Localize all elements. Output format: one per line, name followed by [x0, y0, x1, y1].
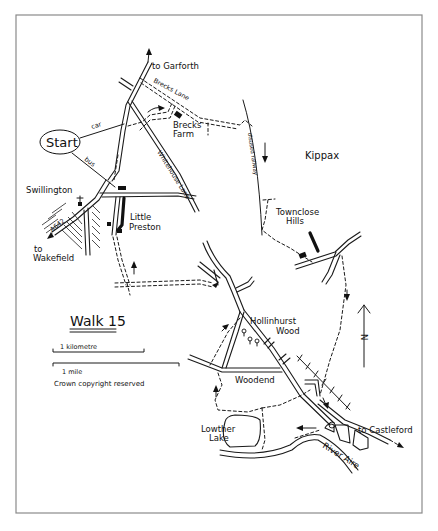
- label-river-aire: River Aire: [321, 440, 361, 470]
- label-garforth: to Garforth: [152, 61, 199, 71]
- label-kippax: Kippax: [305, 150, 339, 161]
- label-scale-mile: 1 mile: [62, 368, 82, 376]
- footpath-little-preston-south: [113, 237, 137, 285]
- label-copyright: Crown copyright reserved: [54, 380, 144, 388]
- label-castleford: to Castleford: [358, 425, 413, 435]
- label-north: N: [359, 334, 369, 340]
- bus-label: bus: [83, 155, 98, 169]
- footpath-garforth-road: [114, 155, 118, 180]
- townclose-bar: [310, 233, 318, 251]
- label-little-preston-1: Little: [130, 212, 151, 222]
- bus-route-line: [72, 153, 115, 187]
- brecks-farm-building: [174, 111, 183, 119]
- label-little-preston-2: Preston: [129, 222, 161, 232]
- label-disused-railway: disused railway: [246, 132, 259, 176]
- railway-active: [297, 355, 350, 410]
- little-preston-building-3: [117, 229, 122, 233]
- walk-map: Start car bus: [0, 0, 438, 531]
- label-a642: A642: [48, 217, 66, 234]
- car-label: car: [90, 120, 103, 131]
- tree-icons: [242, 329, 259, 346]
- scale-bar-mile: [53, 363, 179, 366]
- walk-title: Walk 15: [70, 313, 126, 329]
- label-brecks-lane: Brecks Lane: [152, 77, 191, 103]
- road-hollinhurst-north: [198, 241, 254, 312]
- start-label: Start: [46, 135, 78, 150]
- label-hollinhurst-2: Wood: [276, 326, 300, 336]
- footpath-brecks: [128, 103, 175, 130]
- label-lowther-2: Lake: [209, 433, 229, 443]
- footpath-east-west: [115, 280, 213, 295]
- label-woodend: Woodend: [235, 375, 275, 385]
- label-scale-km: 1 kilometre: [60, 343, 97, 351]
- label-townclose-2: Hills: [286, 216, 304, 226]
- road-to-garforth: [108, 48, 152, 181]
- label-wakefield-2: Wakefield: [33, 253, 74, 263]
- label-brecks-farm-2: Farm: [173, 129, 194, 139]
- car-route-line: [80, 124, 124, 138]
- little-preston-building-1: [118, 186, 126, 190]
- road-kippax-east: [295, 232, 361, 284]
- label-swillington: Swillington: [26, 185, 73, 195]
- road-hollinhurst-triangle: [188, 310, 334, 425]
- start-marker[interactable]: Start: [40, 130, 80, 154]
- label-hollinhurst-1: Hollinhurst: [250, 316, 297, 326]
- church-icon: [77, 196, 83, 206]
- little-preston-building-2: [107, 222, 111, 226]
